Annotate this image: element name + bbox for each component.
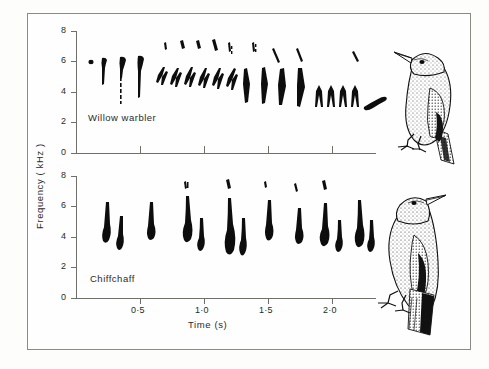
x-tick-bottom-3 (268, 298, 269, 304)
y-ticklabel-bottom-8: 8 (61, 170, 66, 180)
chiffchaff-illustration (376, 179, 468, 339)
y-ticklabel-bottom-6: 6 (61, 200, 66, 210)
x-tick-bottom-2 (204, 298, 205, 304)
sonogram-trace-chiffchaff (76, 176, 376, 298)
y-ticklabel-bottom-4: 4 (61, 231, 66, 241)
y-ticklabel-bottom-2: 2 (61, 261, 66, 271)
x-axis-title: Time (s) (188, 319, 227, 330)
panel-chiffchaff: 0 2 4 6 8 0·5 1·0 1·5 2·0 Time (s) Chiff… (28, 14, 388, 334)
x-ticklabel-20: 2·0 (323, 305, 337, 315)
y-tick-bottom-0 (71, 298, 76, 299)
willow-warbler-illustration (380, 36, 468, 168)
x-ticklabel-10: 1·0 (195, 305, 209, 315)
x-ticklabel-05: 0·5 (131, 305, 145, 315)
x-tick-bottom-1 (140, 298, 141, 304)
x-axis-line-bottom (76, 298, 376, 299)
y-ticklabel-bottom-0: 0 (61, 292, 66, 302)
x-tick-bottom-4 (332, 298, 333, 304)
figure-frame: Frequency ( kHz ) 0 2 4 6 8 Willow warbl… (27, 13, 471, 350)
x-ticklabel-15: 1·5 (259, 305, 273, 315)
